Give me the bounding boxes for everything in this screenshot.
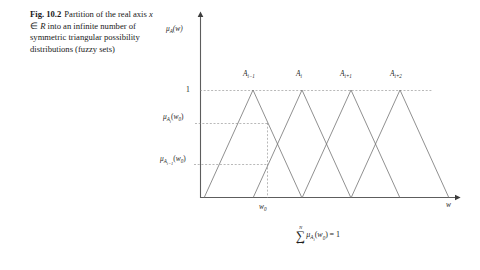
triangle-a-i [253, 90, 351, 198]
sum-lower-limit: i=1 [297, 241, 304, 246]
set-label-a-i-plus-1: Ai+1 [340, 69, 352, 79]
set-label-a-i: Ai [296, 69, 302, 79]
set-label-a-i-plus-2: Ai+2 [390, 69, 402, 79]
triangle-a-i-plus-1 [302, 90, 400, 198]
y-tick-mu-ai-w0: μAi(w0) [163, 112, 184, 124]
y-tick-one: 1 [186, 85, 190, 94]
triangle-a-i-plus-2 [351, 90, 449, 198]
y-tick-mu-ai-minus-1-w0: μAi−1(w0) [160, 154, 186, 166]
set-label-a-i-minus-1: Ai−1 [243, 69, 255, 79]
x-tick-w0: w0 [259, 202, 266, 212]
fuzzy-partition-plot: μA(w) 1 μAi(w0) μAi−1(w0) w0 w Ai−1 Ai A… [0, 0, 480, 270]
plot-svg [0, 0, 480, 270]
summation-operator: N ∑ i=1 [296, 226, 305, 246]
y-axis-label: μA(w) [166, 24, 183, 34]
triangle-a-i-minus-1 [204, 90, 302, 198]
partition-constraint-formula: N ∑ i=1 μAi(w0) = 1 [296, 226, 340, 246]
formula-body: μAi(w0) = 1 [306, 230, 340, 243]
x-axis-label: w [446, 200, 451, 209]
figure-page: Fig. 10.2Partition of the real axis x ∈ … [0, 0, 480, 270]
